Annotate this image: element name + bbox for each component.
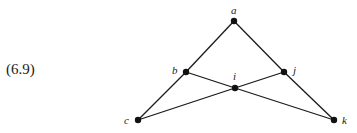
node-a	[231, 18, 237, 24]
node-label-j: j	[291, 64, 296, 76]
edge-b-c	[138, 72, 186, 120]
node-label-a: a	[231, 4, 237, 16]
node-j	[281, 69, 287, 75]
node-b	[183, 69, 189, 75]
edge-a-b	[186, 21, 234, 72]
edge-c-i	[138, 88, 235, 120]
node-label-i: i	[233, 70, 236, 82]
node-label-c: c	[124, 114, 129, 126]
node-label-b: b	[172, 64, 178, 76]
edge-i-k	[235, 88, 334, 120]
node-c	[135, 117, 141, 123]
edge-a-j	[234, 21, 284, 72]
edge-j-k	[284, 72, 334, 120]
node-k	[331, 117, 337, 123]
node-label-k: k	[342, 114, 348, 126]
edge-b-i	[186, 72, 235, 88]
node-i	[232, 85, 238, 91]
edge-i-j	[235, 72, 284, 88]
graph-diagram: abjick	[0, 0, 357, 133]
